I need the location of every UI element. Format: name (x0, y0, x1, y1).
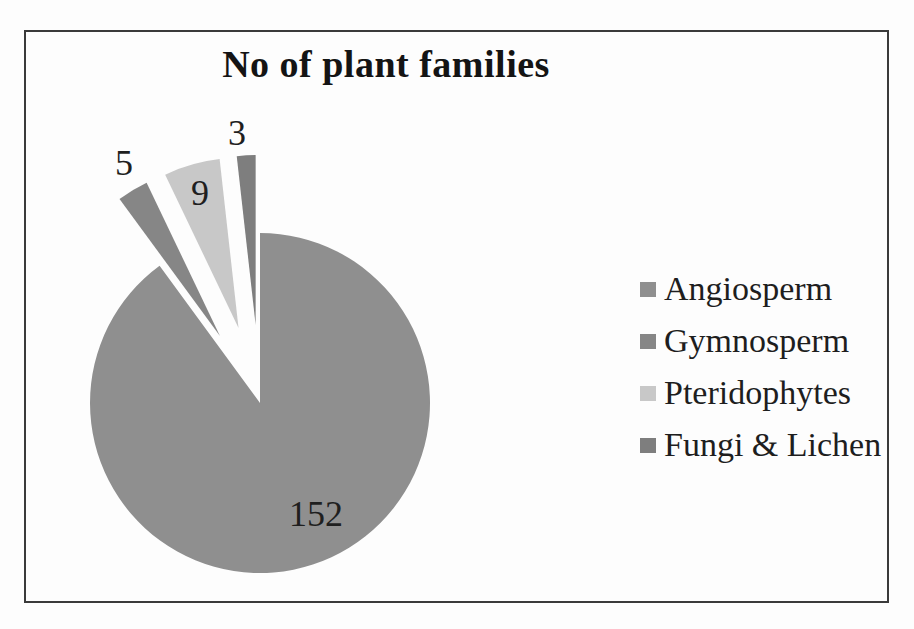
legend-item: Gymnosperm (640, 315, 881, 367)
slice-data-label: 152 (289, 494, 343, 534)
legend: Angiosperm Gymnosperm Pteridophytes Fung… (640, 263, 881, 471)
pie-slice-angiosperm (90, 233, 430, 573)
legend-label: Gymnosperm (664, 324, 849, 358)
slice-data-label: 9 (191, 173, 209, 213)
legend-item: Pteridophytes (640, 367, 881, 419)
pie-slice-fungi-lichen (237, 155, 256, 325)
legend-label: Fungi & Lichen (664, 428, 881, 462)
legend-label: Pteridophytes (664, 376, 851, 410)
legend-item: Angiosperm (640, 263, 881, 315)
slice-data-label: 5 (115, 143, 133, 183)
legend-label: Angiosperm (664, 272, 832, 306)
legend-swatch-icon (640, 386, 656, 401)
legend-item: Fungi & Lichen (640, 419, 881, 471)
legend-swatch-icon (640, 438, 656, 453)
scanned-chart-page: 152593 No of plant families Angiosperm G… (0, 0, 914, 629)
chart-title: No of plant families (96, 42, 676, 86)
slice-data-label: 3 (228, 113, 246, 153)
legend-swatch-icon (640, 282, 656, 297)
legend-swatch-icon (640, 334, 656, 349)
